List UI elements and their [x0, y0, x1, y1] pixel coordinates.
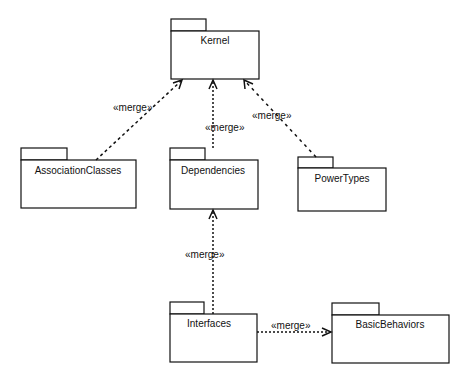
package-tab: [21, 148, 67, 160]
package-label: Kernel: [201, 35, 230, 46]
merge-interfaces-to-dependencies[interactable]: «merge»: [185, 210, 225, 314]
package-basic-behaviors[interactable]: BasicBehaviors: [332, 303, 449, 363]
merge-interfaces-to-basic-behaviors[interactable]: «merge»: [257, 320, 331, 336]
relation-label: «merge»: [205, 122, 245, 133]
package-tab: [298, 157, 333, 168]
relation-label: «merge»: [271, 320, 311, 331]
package-label: Dependencies: [181, 165, 245, 176]
package-association-classes[interactable]: AssociationClasses: [21, 148, 136, 208]
package-interfaces[interactable]: Interfaces: [170, 302, 257, 362]
package-label: PowerTypes: [314, 173, 369, 184]
package-diagram: Kernel AssociationClasses Dependencies P…: [0, 0, 471, 380]
package-tab: [171, 19, 206, 31]
merge-dependencies-to-kernel[interactable]: «merge»: [205, 80, 245, 148]
package-kernel[interactable]: Kernel: [171, 19, 259, 79]
merge-association-classes-to-kernel[interactable]: «merge»: [96, 80, 182, 160]
relation-label: «merge»: [185, 249, 225, 260]
merge-power-types-to-kernel[interactable]: «merge»: [244, 80, 316, 157]
package-tab: [170, 302, 204, 314]
package-power-types[interactable]: PowerTypes: [298, 157, 386, 211]
package-tab: [332, 303, 379, 315]
package-label: AssociationClasses: [35, 165, 122, 176]
package-dependencies[interactable]: Dependencies: [170, 148, 258, 209]
package-label: Interfaces: [187, 318, 231, 329]
relation-label: «merge»: [113, 102, 153, 113]
package-tab: [170, 148, 205, 160]
dashed-line: [96, 81, 181, 160]
relation-label: «merge»: [252, 110, 292, 121]
package-label: BasicBehaviors: [356, 319, 425, 330]
